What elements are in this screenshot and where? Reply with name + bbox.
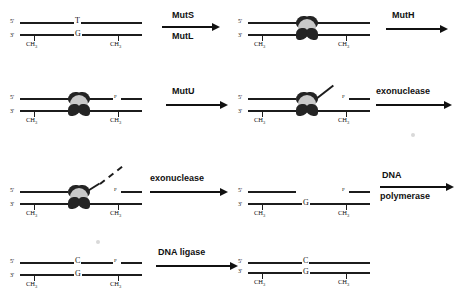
panel-6-excised-gap: 5' 3' P G CH3 CH3 [236,170,376,215]
arrow-shaft [150,191,222,193]
arrow-head-icon [212,23,220,31]
complex-lobe-bottom-right [306,28,318,40]
nick-marker: P [114,94,117,99]
five-prime-label: 5' [10,187,14,193]
arrow-head-icon [444,101,452,109]
three-prime-label: 3' [238,268,242,274]
panel-7-resynthesized: 5' 3' P C G CH3 CH3 [8,244,148,289]
arrow-head-icon [220,188,228,196]
three-prime-label: 3' [238,32,242,38]
arrow-shaft [380,186,448,188]
base-top: C [302,257,309,265]
arrow-label-below: polymerase [380,191,430,201]
arrow-shaft [376,104,446,106]
methyl-label-left: CH3 [254,209,265,219]
three-prime-label: 3' [238,108,242,114]
methyl-label-left: CH3 [26,280,37,290]
three-prime-label: 3' [10,201,14,207]
three-prime-label: 3' [238,201,242,207]
arrow-dna-ligase: DNA ligase [156,247,244,281]
base-bottom: G [302,268,310,276]
dna-top-strand [20,22,142,24]
methyl-label-left: CH3 [254,116,265,126]
nick-marker: P [342,94,345,99]
methyl-label-left: CH3 [26,116,37,126]
arrow-shaft [166,104,222,106]
arrow-label-above: MutS [172,10,194,20]
complex-lobe-bottom-right [306,104,318,116]
dna-top-strand-left [20,262,113,264]
five-prime-label: 5' [238,18,242,24]
methyl-label-right: CH3 [110,280,121,290]
arrow-exonuclease-1: exonuclease [376,86,456,120]
panel-5-degrading: 5' 3' P CH3 CH3 [8,170,148,215]
five-prime-label: 5' [238,187,242,193]
methyl-label-right: CH3 [110,209,121,219]
methyl-label-right: CH3 [338,278,349,288]
arrow-shaft [162,26,214,28]
mutsl-protein-complex-icon [294,15,320,41]
arrow-label-below: MutL [172,31,194,41]
mismatch-repair-diagram: 5' 3' T G CH3 CH3 MutS MutL 5' 3' CH3 CH… [0,0,458,305]
nick-marker: P [342,187,345,192]
scan-artifact-speck [96,240,100,244]
arrow-label-above: exonuclease [150,173,204,183]
panel-3-nicked: 5' 3' P CH3 CH3 [8,84,148,124]
arrow-label-above: MutH [392,10,415,20]
dna-top-strand-right [349,191,370,193]
arrow-label-above: DNA [382,170,402,180]
base-top: C [74,257,81,265]
arrow-head-icon [446,183,454,191]
five-prime-label: 5' [10,94,14,100]
base-bottom: G [74,30,82,38]
base-bottom: G [74,270,82,278]
complex-lobe-bottom-right [78,197,90,209]
methyl-label-right: CH3 [338,40,349,50]
arrow-dna-polymerase: DNA polymerase [380,170,458,208]
five-prime-label: 5' [10,18,14,24]
methyl-label-right: CH3 [110,40,121,50]
methyl-label-right: CH3 [110,116,121,126]
methyl-label-left: CH3 [254,40,265,50]
methyl-label-left: CH3 [26,40,37,50]
panel-8-repaired: 5' 3' C G CH3 CH3 [236,244,376,289]
complex-lobe-bottom-right [78,104,90,116]
arrow-muts-mutl: MutS MutL [162,10,224,44]
arrow-mutu: MutU [166,86,230,120]
dna-top-strand-right [121,191,142,193]
nick-marker: P [114,187,117,192]
three-prime-label: 3' [10,272,14,278]
five-prime-label: 5' [238,94,242,100]
degrading-strand-dashed [99,166,122,185]
panel-1-mismatch: 5' 3' T G CH3 CH3 [8,8,148,48]
three-prime-label: 3' [10,108,14,114]
arrow-head-icon [440,25,448,33]
dna-top-strand-right [121,98,142,100]
scan-artifact-speck [411,133,415,137]
dna-top-strand-left [248,191,296,193]
arrow-shaft [156,265,232,267]
arrow-label-above: exonuclease [376,86,430,96]
methyl-label-right: CH3 [338,209,349,219]
arrow-label-above: DNA ligase [158,247,205,257]
methyl-label-right: CH3 [338,116,349,126]
mutsl-protein-complex-icon [66,184,92,210]
base-top: T [74,17,81,25]
mutsl-protein-complex-icon [294,91,320,117]
three-prime-label: 3' [10,32,14,38]
mutsl-protein-complex-icon [66,91,92,117]
dna-top-strand-left [248,98,296,100]
dna-top-strand-right [349,98,370,100]
dna-top-strand-right [121,262,142,264]
methyl-label-left: CH3 [254,278,265,288]
arrow-muth: MutH [386,10,450,44]
panel-2-mutsl-bound: 5' 3' CH3 CH3 [236,8,376,48]
dna-top-strand-left [20,191,68,193]
arrow-shaft [386,28,442,30]
methyl-label-left: CH3 [26,209,37,219]
arrow-label-above: MutU [172,86,195,96]
arrow-head-icon [220,101,228,109]
nick-marker: P [114,258,117,263]
five-prime-label: 5' [238,258,242,264]
arrow-exonuclease-2: exonuclease [150,173,234,207]
